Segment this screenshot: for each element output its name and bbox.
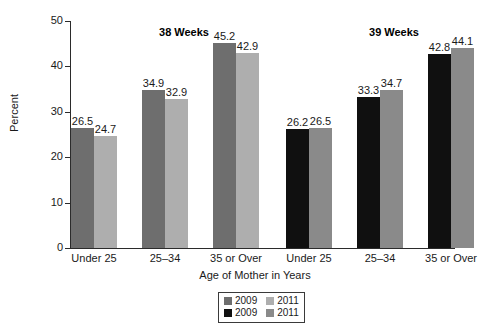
legend-swatch-icon	[266, 309, 274, 317]
x-axis-line	[70, 248, 455, 249]
y-tick-mark	[65, 248, 71, 249]
bar-value-label: 44.1	[446, 35, 480, 47]
y-tick-label-text: 50	[37, 15, 63, 26]
legend-swatch-icon	[266, 297, 274, 305]
legend-row: 20092011	[224, 295, 299, 307]
legend-row: 20092011	[224, 307, 299, 319]
bar	[236, 53, 259, 248]
legend-item: 2011	[266, 296, 299, 306]
category-label: 35 or Over	[406, 252, 496, 264]
legend-item: 2009	[224, 308, 257, 318]
y-tick-label-text: 40	[37, 60, 63, 71]
y-tick-mark	[65, 66, 71, 67]
bar-value-label: 32.9	[160, 86, 194, 98]
y-tick-label: 30	[33, 106, 63, 117]
legend-label: 2011	[277, 308, 299, 318]
bar	[213, 43, 236, 248]
y-tick-label-text: 30	[37, 106, 63, 117]
bar	[165, 99, 188, 248]
bar	[142, 90, 165, 248]
y-tick-mark	[65, 112, 71, 113]
x-axis-title: Age of Mother in Years	[155, 269, 355, 281]
y-tick-label: 50	[33, 15, 63, 26]
y-tick-label-text: 10	[37, 197, 63, 208]
bar-value-label: 42.9	[231, 40, 265, 52]
bar	[357, 97, 380, 248]
legend-item: 2009	[224, 296, 257, 306]
bar	[94, 136, 117, 248]
legend-label: 2009	[235, 296, 257, 306]
y-tick-label: 20	[33, 151, 63, 162]
bar	[286, 129, 309, 248]
bar	[451, 48, 474, 248]
bar	[71, 128, 94, 248]
y-tick-mark	[65, 21, 71, 22]
y-tick-label: 10	[33, 197, 63, 208]
legend-swatch-icon	[224, 297, 232, 305]
bar	[428, 54, 451, 248]
legend-label: 2009	[235, 308, 257, 318]
legend-swatch-icon	[224, 309, 232, 317]
chart-legend: 2009201120092011	[218, 292, 305, 323]
bar-value-label: 34.7	[375, 77, 409, 89]
bar	[309, 128, 332, 248]
y-tick-label: 40	[33, 60, 63, 71]
bar-value-label: 24.7	[89, 123, 123, 135]
bar-value-label: 26.5	[304, 115, 338, 127]
bar	[380, 90, 403, 248]
legend-label: 2011	[277, 296, 299, 306]
legend-item: 2011	[266, 308, 299, 318]
y-tick-label-text: 20	[37, 151, 63, 162]
panel-title-39-weeks: 39 Weeks	[334, 26, 454, 38]
y-axis-title: Percent	[8, 58, 20, 168]
